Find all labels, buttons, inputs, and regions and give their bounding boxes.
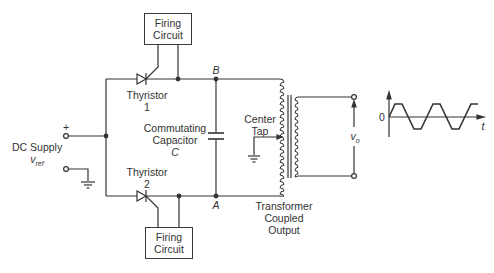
capacitor-icon — [208, 79, 224, 196]
input-plus-label: + — [60, 121, 72, 133]
waveform-t-label: t — [478, 120, 488, 132]
center-tap-wire — [254, 137, 282, 155]
dc-supply-label: DC Supply vref — [12, 141, 62, 170]
thyristor-1-label: Thyristor 1 — [122, 89, 172, 113]
transformer-secondary-coil-icon — [295, 97, 352, 177]
waveform-origin-label: 0 — [377, 111, 387, 123]
junction-dot — [177, 194, 181, 198]
input-terminal-ground — [64, 167, 69, 172]
center-tap-label: Center Tap — [242, 113, 278, 137]
junction-dot — [176, 77, 180, 81]
node-b-dot — [214, 77, 218, 81]
junction-dot — [104, 134, 108, 138]
ground-icon — [248, 156, 260, 162]
firing-circuit-top: Firing Circuit — [144, 13, 192, 45]
output-terminal-top — [352, 95, 357, 100]
firing-circuit-bottom: Firing Circuit — [145, 227, 193, 259]
node-a-label: A — [211, 199, 221, 211]
transformer-label: Transformer Coupled Output — [254, 200, 314, 236]
ground-icon — [81, 182, 95, 188]
firing-circuit-bottom-line1: Firing — [156, 231, 182, 243]
output-waveform — [387, 92, 484, 137]
output-terminal-bottom — [352, 174, 357, 179]
output-voltage-label: vo — [347, 130, 363, 147]
capacitor-label: Commutating Capacitor C — [143, 122, 207, 158]
node-b-label: B — [211, 64, 221, 76]
ground-wire — [68, 169, 88, 181]
node-a-dot — [214, 194, 218, 198]
waveform-y-arrow — [387, 92, 391, 99]
firing-circuit-top-line1: Firing — [155, 17, 181, 29]
thyristor-2-label: Thyristor 2 — [122, 166, 172, 190]
waveform-x-arrow — [477, 115, 484, 119]
firing-circuit-top-line2: Circuit — [153, 29, 183, 41]
vo-arrow-head — [352, 101, 356, 107]
firing-circuit-bottom-line2: Circuit — [154, 243, 184, 255]
input-terminal-plus — [64, 134, 69, 139]
